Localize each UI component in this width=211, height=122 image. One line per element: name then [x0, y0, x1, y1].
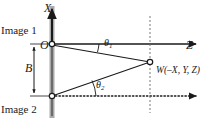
camera2-origin-marker	[49, 93, 54, 98]
camera1-origin-marker	[49, 41, 54, 46]
world-point-w-label: W(–X, Y, Z)	[156, 66, 200, 76]
x-axis-label: X	[44, 2, 51, 14]
stereo-geometry-figure: Image 1 Image 2 X Z O B θ1 θ2 W(–X, Y, Z…	[0, 0, 211, 122]
ray-camera1-to-w	[52, 45, 150, 62]
image-plane-1-label: Image 1	[1, 25, 37, 36]
theta1-arc	[98, 44, 100, 52]
image-plane-2-label: Image 2	[1, 104, 37, 115]
theta2-label: θ2	[96, 80, 104, 92]
world-point-w-marker	[147, 59, 152, 64]
theta2-subscript: 2	[101, 84, 104, 91]
theta1-subscript: 1	[109, 42, 112, 49]
baseline-label: B	[25, 62, 32, 74]
theta1-label: θ1	[104, 38, 112, 50]
z-axis-label: Z	[186, 39, 193, 51]
origin-label: O	[40, 39, 49, 51]
